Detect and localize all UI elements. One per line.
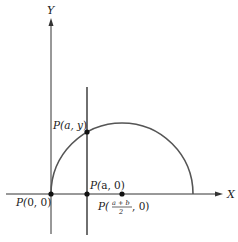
- svg-text:2: 2: [118, 208, 123, 216]
- semicircle-diagram: Y X P(0, 0) P(a, y) P(a, 0) P( a + b 2 ,…: [0, 0, 238, 242]
- label-origin: P(0, 0): [15, 196, 51, 208]
- point-center: [119, 191, 124, 196]
- x-axis-arrow-icon: [215, 192, 223, 197]
- svg-text:P(: P(: [97, 200, 110, 212]
- y-axis-arrow-icon: [49, 18, 54, 26]
- svg-text:, 0): , 0): [132, 200, 149, 212]
- svg-text:a + b: a + b: [112, 199, 130, 207]
- y-axis-label: Y: [47, 4, 56, 17]
- point-a-0: [84, 191, 89, 196]
- x-axis-label: X: [226, 188, 236, 201]
- label-point-center: P( a + b 2 , 0): [97, 199, 149, 216]
- label-point-a-0: P(a, 0): [89, 179, 125, 191]
- label-point-a-y: P(a, y): [52, 119, 87, 131]
